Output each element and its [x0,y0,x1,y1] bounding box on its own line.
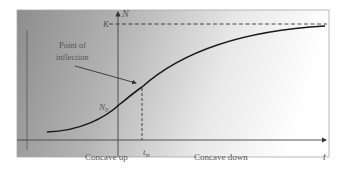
inflection-label-line1: Point of [59,40,86,50]
k-label: K [102,19,110,29]
t-axis-label: t [323,151,326,162]
inflection-label-line2: inflection [56,52,89,62]
n-axis-label: N [121,8,130,19]
logistic-growth-diagram: N K Point of inflection N0 Concave up tm… [0,0,343,178]
concave-down-label: Concave down [194,152,248,162]
concave-up-label: Concave up [85,152,128,162]
diagram-frame [17,10,329,157]
